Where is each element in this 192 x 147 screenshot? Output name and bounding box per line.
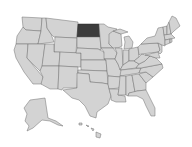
state-florida[interactable]: Florida [128, 90, 155, 116]
state-connecticut[interactable]: Connecticut [165, 39, 170, 45]
state-alaska[interactable]: Alaska [24, 98, 63, 131]
state-colorado[interactable]: Colorado [59, 52, 81, 67]
state-new-york[interactable]: New York [141, 27, 165, 46]
states-layer: WashingtonOregonCaliforniaIdahoNevadaMon… [14, 16, 180, 138]
state-new-mexico[interactable]: New Mexico [58, 66, 78, 90]
state-maine[interactable]: Maine [169, 16, 180, 34]
state-vermont[interactable]: Vermont [163, 26, 167, 35]
state-hawaii[interactable]: Hawaii [79, 123, 101, 138]
state-arizona[interactable]: Arizona [40, 66, 59, 89]
state-kansas[interactable]: Kansas [81, 60, 107, 71]
state-wyoming[interactable]: Wyoming [54, 37, 77, 53]
state-north-dakota[interactable]: North Dakota [77, 24, 100, 37]
us-map: WashingtonOregonCaliforniaIdahoNevadaMon… [0, 0, 192, 147]
state-rhode-island[interactable]: Rhode Island [170, 39, 172, 43]
